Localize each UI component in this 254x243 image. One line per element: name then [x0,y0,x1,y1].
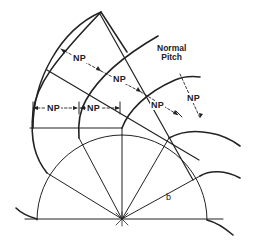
involute-curve-5 [200,172,240,178]
base-circle-arc-right [122,135,207,220]
radial-line-1 [47,173,122,219]
involute-curve-lower-left [16,208,37,219]
gear-involute-drawing [0,0,254,243]
normal-pitch-label: Normal Pitch [156,44,187,61]
label-np-6: NP [186,94,201,103]
involute-curve-2 [79,36,158,138]
label-np-3: NP [72,54,87,63]
involute-curve-6 [207,220,233,235]
normal-pitch-label-line2: Pitch [157,53,186,62]
label-np-4: NP [112,75,127,84]
base-radius-label: b [165,193,172,202]
involute-curve-4 [169,132,240,146]
radial-line-3 [122,138,169,219]
base-circle-arc [37,135,122,220]
radial-line-2 [79,138,122,219]
label-np-2: NP [86,104,101,113]
radial-line-b [122,176,200,219]
label-np-5: NP [150,101,165,110]
label-np-1: NP [46,104,61,113]
diagram-canvas: NP NP NP NP NP NP Normal Pitch b [0,0,254,243]
